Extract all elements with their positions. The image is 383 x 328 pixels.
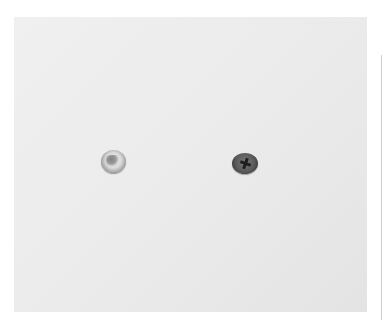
phillips-screw-head [232,153,258,174]
photo-background [14,17,367,312]
page-edge-line [381,55,382,320]
silver-screw-head [101,150,126,173]
